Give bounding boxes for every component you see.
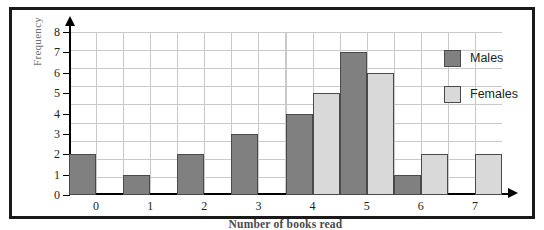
y-tick-label: 4 — [54, 106, 60, 121]
x-tick-label-2: 2 — [201, 199, 207, 214]
legend-label-males: Males — [470, 51, 503, 65]
y-tick-mark — [63, 32, 70, 33]
y-tick-label: 0 — [54, 188, 60, 203]
bar-males-1 — [123, 175, 150, 195]
bar-males-4 — [286, 114, 313, 196]
y-tick-label: 6 — [54, 65, 60, 80]
chart-figure: Frequency 012345678 01234567 Number of b… — [0, 0, 544, 230]
bar-females-7 — [475, 154, 502, 195]
x-tick-label-1: 1 — [147, 199, 153, 214]
y-tick-label: 8 — [54, 25, 60, 40]
bar-males-5 — [340, 52, 367, 195]
legend-swatch-females — [444, 86, 461, 103]
y-tick-label: 1 — [54, 167, 60, 182]
y-tick-mark — [63, 73, 70, 74]
y-tick-mark — [63, 195, 70, 196]
bar-males-6 — [394, 175, 421, 195]
x-axis-arrow-icon — [508, 188, 518, 198]
y-tick-mark — [63, 114, 70, 115]
y-tick-mark — [63, 52, 70, 53]
legend-item-males: Males — [444, 40, 544, 76]
legend-swatch-males — [444, 50, 461, 67]
x-tick-label-0: 0 — [93, 199, 99, 214]
x-tick-label-4: 4 — [310, 199, 316, 214]
figure-border: Frequency 012345678 01234567 Number of b… — [9, 7, 535, 219]
y-axis-title: Frequency — [31, 17, 43, 66]
y-tick-label: 2 — [54, 147, 60, 162]
legend-label-females: Females — [470, 87, 518, 101]
y-axis-arrow-icon — [65, 16, 75, 26]
bar-females-6 — [421, 154, 448, 195]
bar-males-0 — [69, 154, 96, 195]
legend-item-females: Females — [444, 76, 544, 112]
bar-females-5 — [367, 73, 394, 195]
bar-females-4 — [313, 93, 340, 195]
plot-area: 012345678 01234567 Number of books read … — [69, 32, 502, 195]
y-tick-mark — [63, 93, 70, 94]
x-tick-label-5: 5 — [364, 199, 370, 214]
y-tick-label: 5 — [54, 86, 60, 101]
x-tick-label-3: 3 — [255, 199, 261, 214]
y-tick-mark — [63, 134, 70, 135]
bar-males-3 — [231, 134, 258, 195]
x-tick-label-6: 6 — [418, 199, 424, 214]
chart-legend: MalesFemales — [444, 40, 544, 112]
y-tick-label: 3 — [54, 126, 60, 141]
bar-males-2 — [177, 154, 204, 195]
x-axis-title: Number of books read — [69, 218, 502, 230]
y-tick-label: 7 — [54, 45, 60, 60]
x-tick-label-7: 7 — [472, 199, 478, 214]
